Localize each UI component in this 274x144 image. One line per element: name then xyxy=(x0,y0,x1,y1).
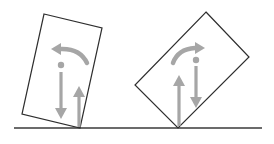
right-normal-arrowhead-icon xyxy=(173,75,185,86)
left-center-of-gravity-dot xyxy=(58,62,64,68)
right-block-outline xyxy=(135,12,249,128)
right-torque-arrowhead-icon xyxy=(195,42,205,54)
left-torque-arrowhead-icon xyxy=(51,43,61,55)
left-normal-arrowhead-icon xyxy=(73,86,85,97)
left-weight-arrowhead-icon xyxy=(55,108,67,119)
right-torque-arrow-icon xyxy=(173,48,195,63)
tipping-blocks-diagram xyxy=(0,0,274,144)
left-block xyxy=(22,14,102,128)
right-block xyxy=(135,12,249,128)
right-center-of-gravity-dot xyxy=(193,57,199,63)
left-torque-arrow-icon xyxy=(60,49,87,63)
